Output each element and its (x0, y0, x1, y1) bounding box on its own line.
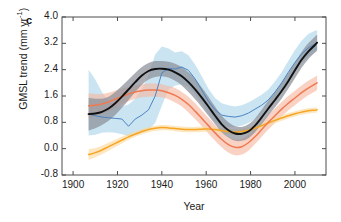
figure-panel-c: c GMSL trend (mm yr-1) Year -0.80.00.81.… (0, 0, 341, 222)
plot-canvas (0, 0, 341, 222)
